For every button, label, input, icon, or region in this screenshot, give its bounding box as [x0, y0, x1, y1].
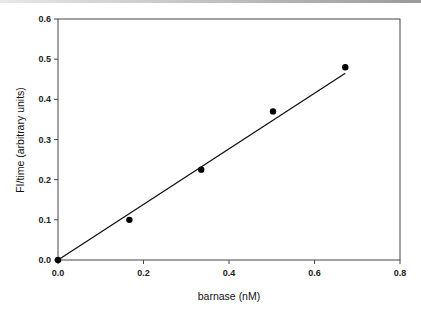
y-tick-label: 0.6 — [38, 14, 51, 24]
y-tick-label: 0.0 — [38, 255, 51, 265]
x-tick-label: 0.4 — [223, 268, 236, 278]
scatter-chart: 0.00.10.20.30.40.50.6 0.00.20.40.60.8 ba… — [0, 0, 421, 315]
y-tick-label: 0.1 — [38, 215, 51, 225]
x-tick-label: 0.0 — [52, 268, 65, 278]
fit-line — [58, 73, 345, 260]
y-tick-label: 0.3 — [38, 135, 51, 145]
y-tick-label: 0.4 — [38, 94, 51, 104]
y-tick-label: 0.2 — [38, 175, 51, 185]
x-axis-title: barnase (nM) — [198, 290, 260, 302]
y-tick-label: 0.5 — [38, 54, 51, 64]
x-tick-label: 0.6 — [308, 268, 321, 278]
x-axis-ticks: 0.00.20.40.60.8 — [52, 260, 407, 278]
x-tick-label: 0.2 — [137, 268, 150, 278]
series-layer — [55, 64, 349, 263]
plot-border — [58, 19, 400, 260]
data-point — [342, 64, 348, 70]
data-point — [270, 108, 276, 114]
y-axis-title: FI/time (arbitrary units) — [14, 87, 26, 193]
data-point — [126, 217, 132, 223]
plot-frame — [58, 19, 400, 260]
y-axis-ticks: 0.00.10.20.30.40.50.6 — [38, 14, 58, 265]
x-tick-label: 0.8 — [394, 268, 407, 278]
